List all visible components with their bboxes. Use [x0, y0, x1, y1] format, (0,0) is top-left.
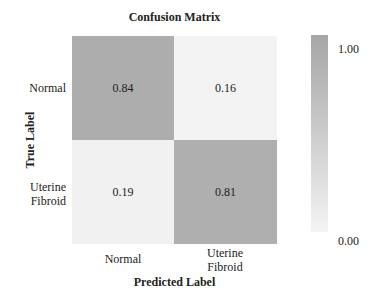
- cell-value: 0.81: [215, 185, 236, 200]
- y-tick-label: Normal: [29, 81, 66, 95]
- y-tick-uterine-fibroid: Uterine Fibroid: [30, 180, 66, 208]
- cell-value: 0.19: [113, 185, 134, 200]
- colorbar-max-label: 1.00: [338, 42, 359, 57]
- cell-normal-fibroid: 0.16: [174, 36, 277, 140]
- y-tick-normal: Normal: [29, 81, 66, 95]
- x-tick-label: Normal: [72, 252, 174, 266]
- x-tick-label-line1: Uterine: [174, 246, 276, 260]
- confusion-matrix-heatmap: 0.84 0.16 0.19 0.81: [72, 36, 277, 244]
- x-tick-label-line2: Fibroid: [174, 260, 276, 274]
- x-tick-normal: Normal: [72, 252, 174, 266]
- colorbar-min-label: 0.00: [338, 234, 359, 249]
- cell-value: 0.84: [113, 81, 134, 96]
- cell-fibroid-normal: 0.19: [72, 140, 174, 244]
- y-tick-label-line1: Uterine: [30, 180, 66, 194]
- y-axis-label: True Label: [23, 112, 38, 169]
- colorbar: [311, 35, 328, 232]
- chart-title: Confusion Matrix: [72, 10, 277, 25]
- cell-value: 0.16: [215, 81, 236, 96]
- y-tick-label-line2: Fibroid: [30, 194, 66, 208]
- x-tick-uterine-fibroid: Uterine Fibroid: [174, 246, 276, 274]
- x-axis-label: Predicted Label: [72, 275, 277, 290]
- cell-normal-normal: 0.84: [72, 36, 174, 140]
- cell-fibroid-fibroid: 0.81: [174, 140, 277, 244]
